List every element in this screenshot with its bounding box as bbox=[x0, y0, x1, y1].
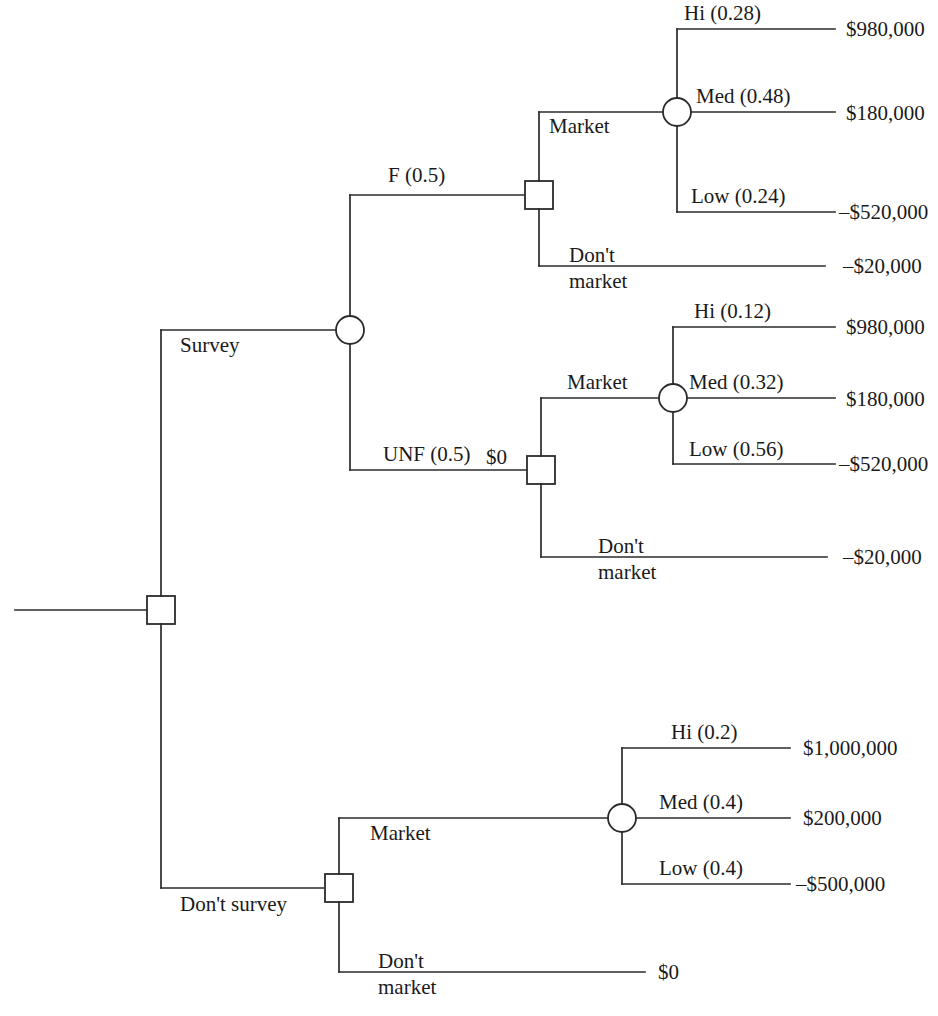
f-low-payoff: –$520,000 bbox=[838, 200, 928, 224]
survey-cost-label: $0 bbox=[486, 445, 507, 469]
f-med-payoff: $180,000 bbox=[846, 101, 925, 125]
f-dont-market-label-line2: market bbox=[569, 269, 627, 293]
unfavorable-market-chance-node[interactable] bbox=[659, 384, 687, 412]
ns-dont-market-label-line1: Don't bbox=[378, 949, 424, 973]
ns-med-label: Med (0.4) bbox=[659, 790, 743, 814]
unf-market-label: Market bbox=[567, 370, 628, 394]
survey-chance-node[interactable] bbox=[336, 316, 364, 344]
ns-hi-label: Hi (0.2) bbox=[671, 720, 738, 744]
f-hi-label: Hi (0.28) bbox=[684, 1, 761, 25]
f-dont-market-label-line1: Don't bbox=[569, 243, 615, 267]
unf-med-payoff: $180,000 bbox=[846, 387, 925, 411]
f-dont-market-payoff: –$20,000 bbox=[842, 254, 922, 278]
decision-tree-canvas: Survey Don't survey F (0.5) UNF (0.5) $0… bbox=[0, 0, 938, 1016]
ns-low-label: Low (0.4) bbox=[659, 856, 743, 880]
unf-low-label: Low (0.56) bbox=[689, 437, 783, 461]
favorable-decision-node[interactable] bbox=[525, 181, 553, 209]
f-market-label: Market bbox=[549, 114, 610, 138]
ns-med-payoff: $200,000 bbox=[803, 806, 882, 830]
f-low-label: Low (0.24) bbox=[691, 184, 785, 208]
unfavorable-decision-node[interactable] bbox=[527, 456, 555, 484]
unf-low-payoff: –$520,000 bbox=[838, 452, 928, 476]
f-hi-payoff: $980,000 bbox=[846, 17, 925, 41]
ns-dont-market-label-line2: market bbox=[378, 975, 436, 999]
no-survey-market-chance-node[interactable] bbox=[608, 804, 636, 832]
root-decision-node[interactable] bbox=[147, 596, 175, 624]
ns-low-payoff: –$500,000 bbox=[795, 872, 885, 896]
ns-hi-payoff: $1,000,000 bbox=[803, 736, 898, 760]
decision-tree-diagram: Survey Don't survey F (0.5) UNF (0.5) $0… bbox=[0, 0, 938, 1016]
f-med-label: Med (0.48) bbox=[696, 84, 790, 108]
ns-dont-market-payoff: $0 bbox=[658, 960, 679, 984]
unfavorable-prob-label: UNF (0.5) bbox=[383, 442, 471, 466]
unf-med-label: Med (0.32) bbox=[689, 370, 783, 394]
no-survey-decision-node[interactable] bbox=[325, 874, 353, 902]
favorable-prob-label: F (0.5) bbox=[388, 163, 445, 187]
unf-dont-market-payoff: –$20,000 bbox=[842, 545, 922, 569]
favorable-market-chance-node[interactable] bbox=[663, 98, 691, 126]
ns-market-label: Market bbox=[370, 821, 431, 845]
unf-dont-market-label-line1: Don't bbox=[598, 534, 644, 558]
unf-hi-label: Hi (0.12) bbox=[694, 299, 771, 323]
unf-dont-market-label-line2: market bbox=[598, 560, 656, 584]
dont-survey-label: Don't survey bbox=[180, 892, 288, 916]
survey-label: Survey bbox=[180, 333, 240, 357]
unf-hi-payoff: $980,000 bbox=[846, 315, 925, 339]
